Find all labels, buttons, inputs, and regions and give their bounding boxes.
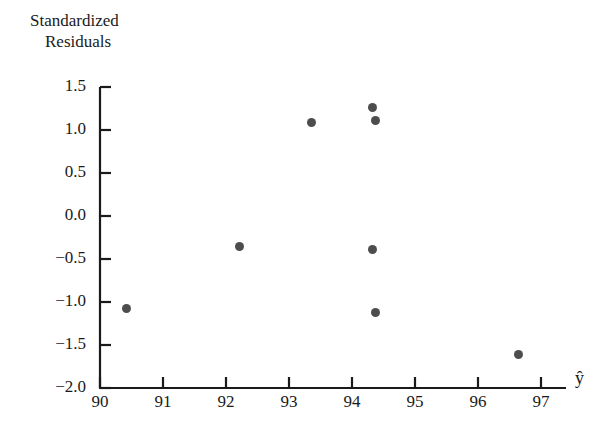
y-tick-label: −1.0	[32, 291, 86, 311]
x-axis-title: ŷ	[575, 368, 584, 389]
x-tick-label: 91	[143, 392, 183, 412]
axis-lines	[99, 87, 566, 388]
x-tick-marks	[100, 377, 541, 388]
y-tick-label: −2.0	[32, 377, 86, 397]
y-tick-label: 1.5	[32, 76, 86, 96]
y-tick-marks	[100, 87, 111, 388]
data-point	[307, 118, 316, 127]
scatter-plot-figure: Standardized Residuals 1.51.00.50.0−0.5−…	[0, 0, 613, 434]
x-tick-label: 97	[521, 392, 561, 412]
data-point	[368, 103, 377, 112]
x-tick-label: 92	[206, 392, 246, 412]
x-tick-label: 93	[269, 392, 309, 412]
y-tick-label: −0.5	[32, 248, 86, 268]
y-tick-label: −1.5	[32, 334, 86, 354]
x-tick-label: 96	[458, 392, 498, 412]
x-tick-label: 94	[332, 392, 372, 412]
plot-canvas	[0, 0, 613, 434]
y-tick-label: 0.0	[32, 205, 86, 225]
x-tick-label: 90	[80, 392, 120, 412]
x-tick-label: 95	[395, 392, 435, 412]
y-tick-label: 0.5	[32, 162, 86, 182]
y-tick-label: 1.0	[32, 119, 86, 139]
